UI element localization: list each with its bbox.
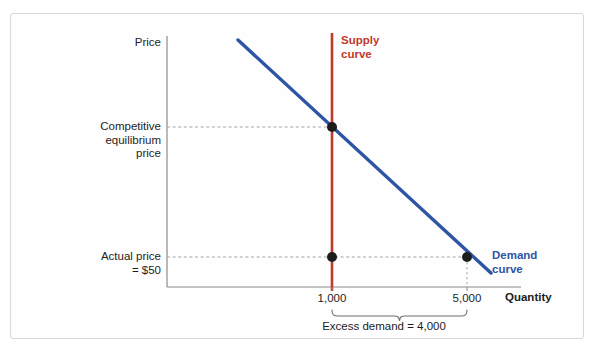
demand-curve-line: [238, 40, 491, 273]
excess-demand-annotation: Excess demand = 4,000: [299, 320, 469, 332]
point-quantity-demanded: [462, 252, 472, 262]
actual-price-label: Actual price = $50: [48, 250, 161, 277]
point-actual-price-on-supply: [327, 252, 337, 262]
xtick-label-1000: 1,000: [302, 292, 362, 304]
x-axis-title: Quantity: [505, 291, 552, 305]
xtick-label-5000: 5,000: [437, 292, 497, 304]
y-axis-title: Price: [101, 36, 161, 50]
economics-supply-demand-figure: Price Quantity Competitive equilibrium p…: [0, 0, 594, 348]
competitive-equilibrium-price-label: Competitive equilibrium price: [48, 120, 161, 161]
point-competitive-equilibrium: [327, 122, 337, 132]
demand-curve-label: Demand curve: [492, 249, 537, 276]
supply-curve-label: Supply curve: [341, 34, 379, 61]
